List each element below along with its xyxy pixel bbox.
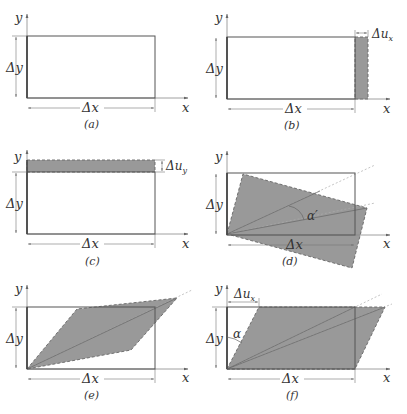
dim-x-label: Δx bbox=[81, 100, 99, 115]
element-rectangle bbox=[27, 172, 155, 234]
panel-d: α′ y x Δy Δx (d) bbox=[205, 149, 391, 268]
dim-x-label: Δx bbox=[284, 101, 302, 116]
du-label: Δuy bbox=[165, 159, 187, 175]
y-axis-label: y bbox=[214, 149, 223, 164]
dim-x-label: Δx bbox=[81, 371, 99, 386]
y-axis-label: y bbox=[214, 281, 223, 296]
du-label: Δux bbox=[233, 287, 255, 303]
element-rectangle bbox=[227, 37, 355, 99]
stretch-region bbox=[355, 37, 368, 99]
dim-y-label: Δy bbox=[205, 197, 223, 212]
panel-f: y x α Δux Δy Δx (f) bbox=[205, 281, 392, 402]
dim-y-label: Δy bbox=[205, 331, 223, 346]
panel-caption: (d) bbox=[282, 255, 298, 268]
y-axis-label: y bbox=[14, 10, 23, 25]
panel-caption: (c) bbox=[85, 255, 100, 268]
panel-caption: (b) bbox=[284, 119, 300, 132]
angle-label: α bbox=[233, 327, 241, 341]
dim-y-label: Δy bbox=[5, 60, 23, 75]
x-axis-label: x bbox=[383, 236, 391, 251]
panel-c: y x Δy Δx Δuy (c) bbox=[5, 149, 190, 268]
du-subscript: x bbox=[250, 294, 255, 303]
du-label: Δux bbox=[371, 27, 393, 43]
dim-x-label: Δx bbox=[285, 237, 303, 252]
x-axis-label: x bbox=[182, 100, 190, 115]
du-subscript: y bbox=[181, 166, 187, 175]
x-axis-label: x bbox=[383, 370, 391, 385]
du-subscript: x bbox=[388, 34, 393, 43]
dim-y-label: Δy bbox=[205, 61, 223, 76]
y-axis-label: y bbox=[214, 10, 223, 25]
panel-caption: (e) bbox=[84, 389, 99, 402]
panel-caption: (a) bbox=[84, 118, 99, 131]
panel-e: y x Δy Δx (e) bbox=[5, 281, 192, 402]
x-axis-label: x bbox=[182, 370, 190, 385]
dim-y-label: Δy bbox=[5, 196, 23, 211]
panel-caption: (f) bbox=[286, 389, 299, 402]
deformation-figure: y x Δy Δx (a) y x Δy Δx Δux (b) bbox=[0, 0, 407, 414]
y-axis-label: y bbox=[14, 281, 23, 296]
dim-x-label: Δx bbox=[281, 371, 299, 386]
panel-b: y x Δy Δx Δux (b) bbox=[205, 10, 393, 132]
x-axis-label: x bbox=[182, 236, 190, 251]
du-symbol: Δu bbox=[233, 287, 250, 301]
du-symbol: Δu bbox=[165, 159, 182, 173]
du-symbol: Δu bbox=[371, 27, 388, 41]
angle-label: α′ bbox=[307, 209, 318, 223]
dim-y-label: Δy bbox=[5, 331, 23, 346]
stretch-region bbox=[27, 160, 155, 172]
panel-a: y x Δy Δx (a) bbox=[5, 10, 190, 131]
dim-x-label: Δx bbox=[81, 236, 99, 251]
element-rectangle bbox=[27, 36, 155, 98]
x-axis-label: x bbox=[383, 101, 391, 116]
y-axis-label: y bbox=[13, 149, 22, 164]
